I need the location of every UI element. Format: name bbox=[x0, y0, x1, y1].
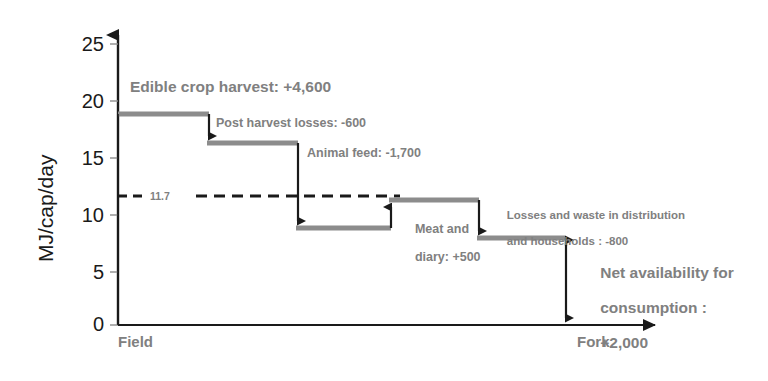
y-axis-title: MJ/cap/day bbox=[34, 155, 58, 262]
annotation-losses-and-waste-line2: and households : -800 bbox=[507, 235, 628, 247]
annotation-losses-and-waste-line1: Losses and waste in distribution bbox=[507, 209, 685, 221]
annotation-meat-and-diary: Meat and diary: +500 bbox=[401, 208, 481, 278]
reference-line-value-label: 11.7 bbox=[150, 190, 170, 202]
annotation-net-availability: Net availability for consumption : +2,00… bbox=[583, 247, 734, 369]
annotation-post-harvest-losses: Post harvest losses: -600 bbox=[216, 116, 366, 130]
annotation-meat-and-diary-line1: Meat and bbox=[415, 222, 469, 236]
x-axis-label-fork: Fork bbox=[577, 333, 610, 350]
y-tick-label-10: 10 bbox=[58, 204, 104, 227]
annotation-net-availability-line1: Net availability for bbox=[600, 264, 734, 281]
y-axis bbox=[110, 35, 118, 325]
y-tick-label-20: 20 bbox=[58, 90, 104, 113]
y-tick-label-25: 25 bbox=[58, 33, 104, 56]
annotation-edible-crop-harvest: Edible crop harvest: +4,600 bbox=[130, 78, 331, 95]
annotation-animal-feed: Animal feed: -1,700 bbox=[307, 146, 421, 160]
annotation-meat-and-diary-line2: diary: +500 bbox=[415, 250, 481, 264]
y-tick-label-15: 15 bbox=[58, 147, 104, 170]
annotation-net-availability-line2: consumption : bbox=[600, 299, 707, 316]
waterfall-chart: MJ/cap/day 25 20 15 10 5 0 11.7 Edible c… bbox=[0, 0, 768, 381]
y-tick-label-0: 0 bbox=[58, 313, 104, 336]
x-axis-label-field: Field bbox=[118, 333, 153, 350]
y-tick-label-5: 5 bbox=[58, 261, 104, 284]
